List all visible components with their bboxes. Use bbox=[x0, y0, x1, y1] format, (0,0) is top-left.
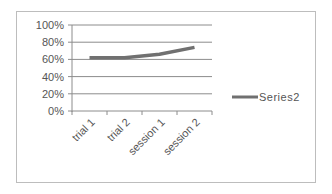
y-axis-tick-labels: 0%20%40%60%80%100% bbox=[36, 19, 64, 117]
y-tick-label: 100% bbox=[36, 19, 64, 31]
series-2-line bbox=[90, 47, 195, 57]
x-tick-label: trial 1 bbox=[69, 116, 97, 144]
y-tick-label: 80% bbox=[42, 36, 64, 48]
y-tick-label: 0% bbox=[48, 105, 64, 117]
line-chart: 0%20%40%60%80%100% trial 1trial 2session… bbox=[0, 0, 332, 194]
y-tick-label: 60% bbox=[42, 53, 64, 65]
legend: Series2 bbox=[232, 91, 300, 103]
x-tick-label: session 1 bbox=[126, 116, 167, 157]
y-tick-label: 20% bbox=[42, 88, 64, 100]
y-tick-label: 40% bbox=[42, 71, 64, 83]
gridlines bbox=[68, 25, 212, 111]
legend-label: Series2 bbox=[259, 91, 300, 103]
x-axis-tick-labels: trial 1trial 2session 1session 2 bbox=[69, 116, 202, 157]
x-tick-label: session 2 bbox=[161, 116, 202, 157]
x-tick-label: trial 2 bbox=[104, 116, 132, 144]
x-axis-ticks bbox=[72, 111, 212, 115]
